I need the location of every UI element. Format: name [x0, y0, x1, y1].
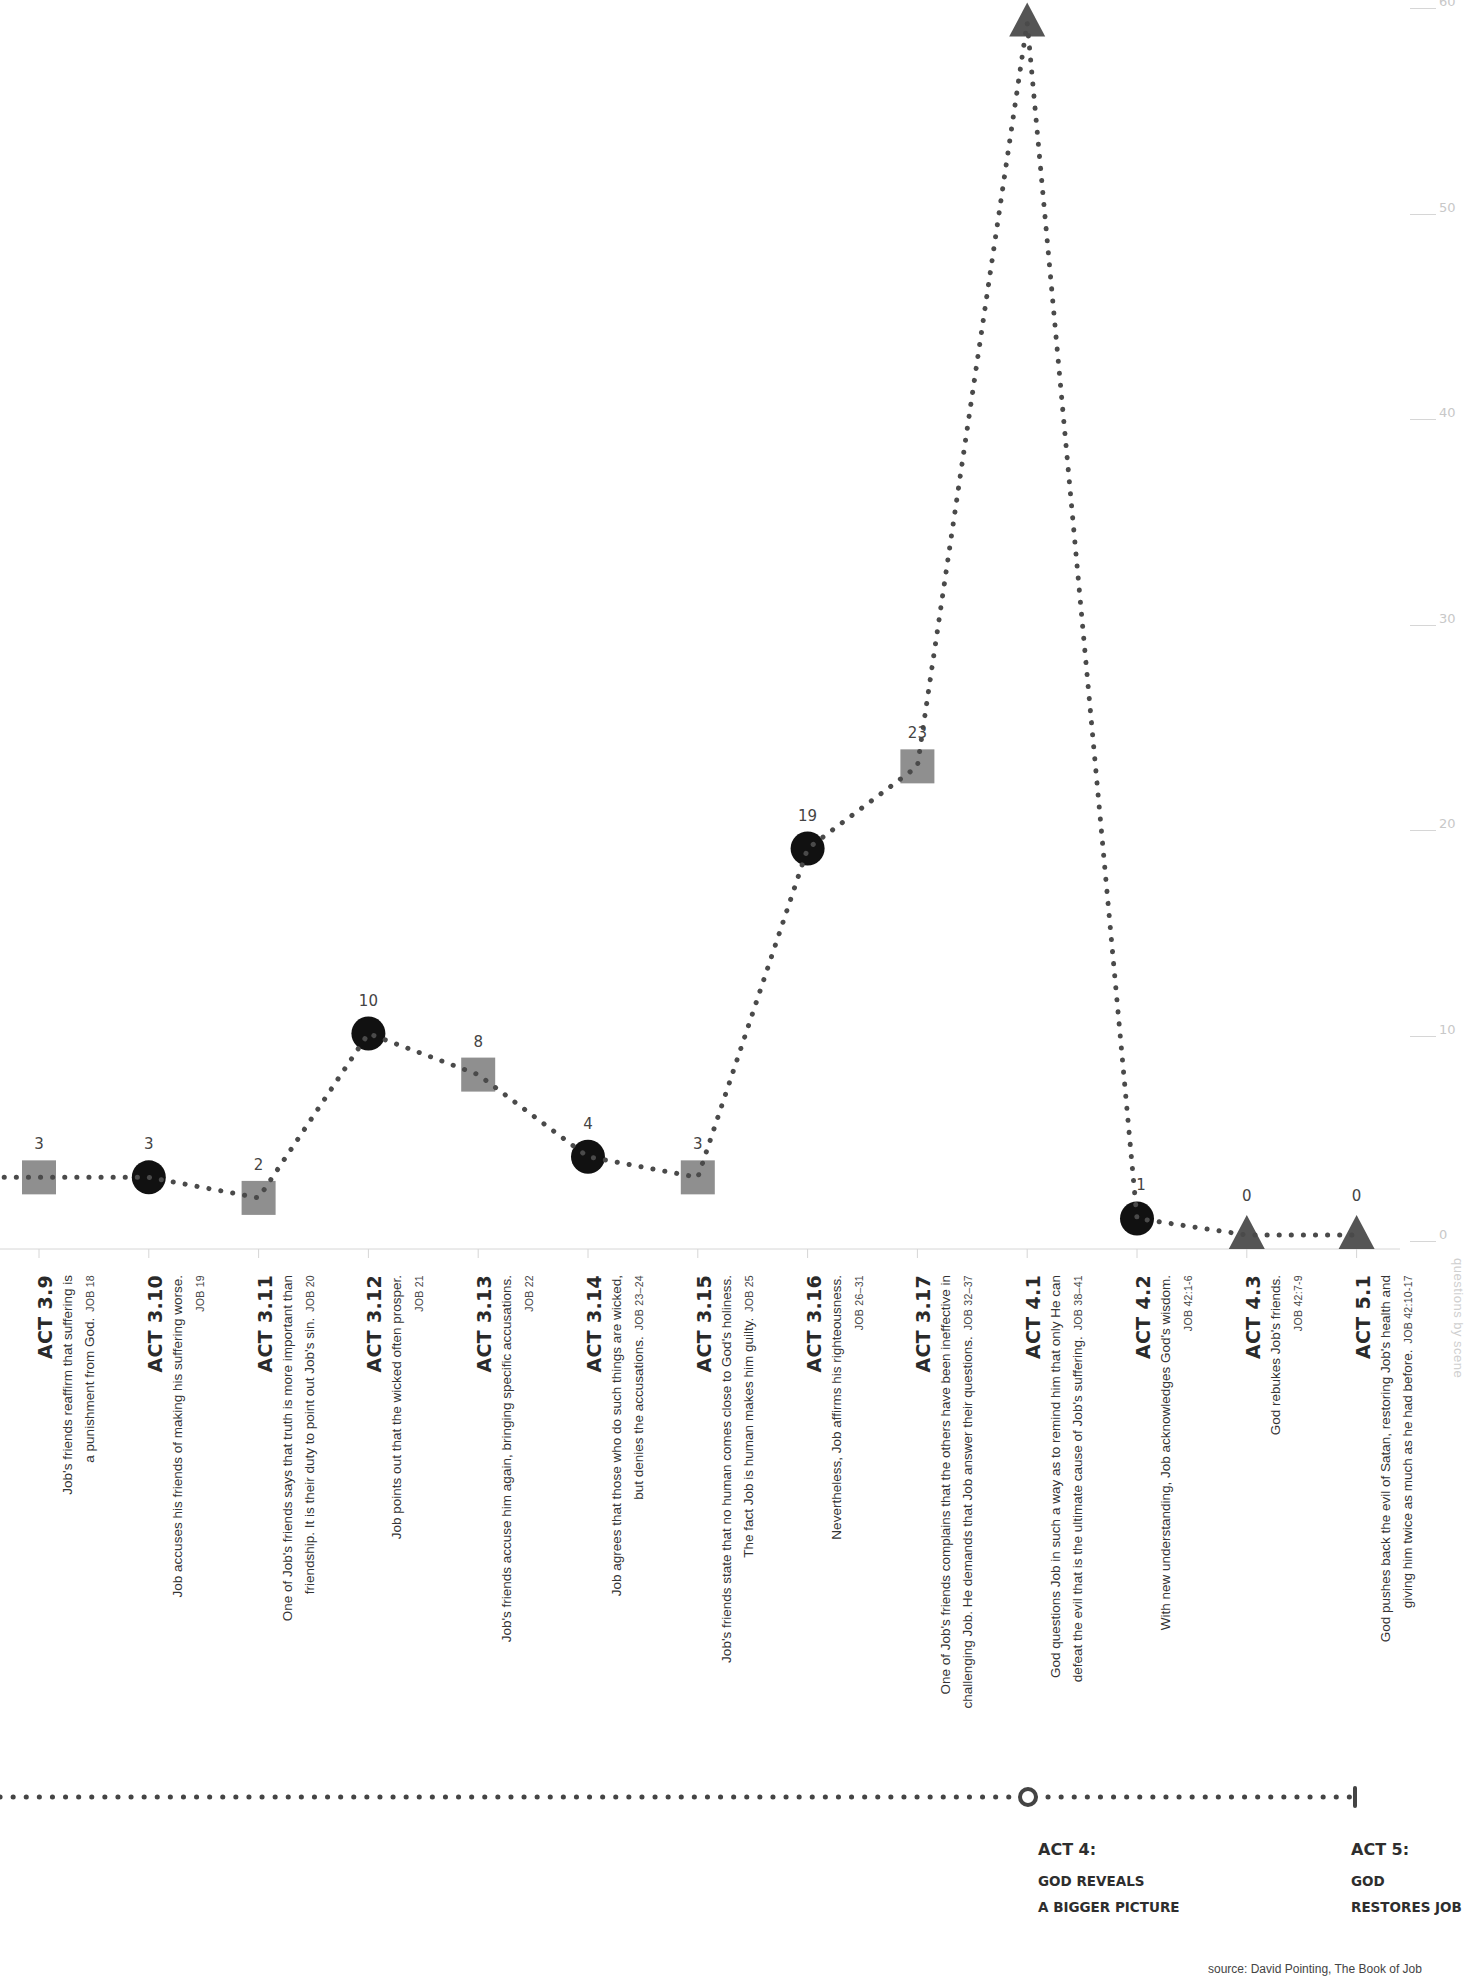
- scene-act-title: ACT 3.14: [582, 1275, 606, 1715]
- scene-description: Job's friends accuse him again, bringing…: [496, 1275, 518, 1715]
- scene-description: With new understanding, Job acknowledges…: [1155, 1275, 1177, 1715]
- scene-act-title: ACT 3.17: [911, 1275, 935, 1715]
- y-tick-label: 50: [1439, 200, 1456, 215]
- y-tick-line: [1410, 830, 1436, 831]
- scene-description: Job agrees that those who do such things…: [606, 1275, 628, 1715]
- y-tick-label: 40: [1439, 405, 1456, 420]
- scene-act-title: ACT 3.10: [143, 1275, 167, 1715]
- scripture-reference: JOB 22: [523, 1275, 535, 1312]
- scene-act-title: ACT 3.9: [33, 1275, 57, 1715]
- scene-label-act-3-13: ACT 3.13Job's friends accuse him again, …: [472, 1275, 540, 1715]
- scripture-reference: JOB 18: [84, 1275, 96, 1312]
- scripture-reference: JOB 21: [413, 1275, 425, 1312]
- scene-label-act-3-15: ACT 3.15Job's friends state that no huma…: [692, 1275, 760, 1715]
- scene-label-act-4-1: ACT 4.1God questions Job in such a way a…: [1021, 1275, 1089, 1715]
- value-label: 4: [583, 1115, 593, 1133]
- act-5-heading: ACT 5:: [1351, 1840, 1409, 1859]
- y-tick-label: 20: [1439, 816, 1456, 831]
- scene-label-act-3-16: ACT 3.16Nevertheless, Job affirms his ri…: [802, 1275, 870, 1715]
- scripture-reference: JOB 42:7-9: [1292, 1275, 1304, 1331]
- scene-description: God rebukes Job's friends.: [1265, 1275, 1287, 1715]
- scene-label-act-3-10: ACT 3.10Job accuses his friends of makin…: [143, 1275, 211, 1715]
- value-label: 3: [144, 1135, 154, 1153]
- act-4-subtitle-1: GOD REVEALS: [1038, 1868, 1145, 1894]
- square-marker: [900, 749, 934, 783]
- value-label: 2: [254, 1156, 264, 1174]
- scripture-reference: JOB 42:10-17: [1402, 1275, 1414, 1343]
- scene-description: Job's friends reaffirm that suffering is: [57, 1275, 79, 1715]
- scene-label-act-3-12: ACT 3.12Job points out that the wicked o…: [362, 1275, 430, 1715]
- scene-label-act-4-2: ACT 4.2With new understanding, Job ackno…: [1131, 1275, 1199, 1715]
- scene-label-act-3-9: ACT 3.9Job's friends reaffirm that suffe…: [33, 1275, 101, 1715]
- y-tick-label: 10: [1439, 1022, 1456, 1037]
- y-tick-line: [1410, 1036, 1436, 1037]
- scene-description: friendship. It is their duty to point ou…: [299, 1275, 321, 1715]
- value-label: 0: [1352, 1187, 1362, 1205]
- scene-description: a punishment from God.JOB 18: [79, 1275, 101, 1715]
- scene-description: One of Job's friends complains that the …: [935, 1275, 957, 1715]
- value-label: 1: [1136, 1176, 1146, 1194]
- triangle-marker: [1339, 1215, 1375, 1249]
- act-4-open-circle-marker: [1020, 1789, 1036, 1805]
- y-tick-label: 60: [1439, 0, 1456, 9]
- circle-marker: [571, 1140, 605, 1174]
- dotted-series-line: [0, 23, 1357, 1235]
- y-tick-label: 0: [1439, 1227, 1447, 1242]
- act-5-subtitle-1: GOD: [1351, 1868, 1385, 1894]
- scripture-reference: JOB 25: [743, 1275, 755, 1312]
- scene-description: God pushes back the evil of Satan, resto…: [1375, 1275, 1397, 1715]
- scene-description: but denies the accusations.JOB 23–24: [628, 1275, 650, 1715]
- value-label: 10: [359, 992, 378, 1010]
- source-note: source: David Pointing, The Book of Job: [1208, 1962, 1422, 1976]
- circle-marker: [351, 1017, 385, 1051]
- scene-description: God questions Job in such a way as to re…: [1045, 1275, 1067, 1715]
- scene-description: One of Job's friends says that truth is …: [277, 1275, 299, 1715]
- scene-act-title: ACT 3.11: [253, 1275, 277, 1715]
- scene-description: giving him twice as much as he had befor…: [1397, 1275, 1419, 1715]
- y-tick-line: [1410, 1241, 1436, 1242]
- y-tick-line: [1410, 419, 1436, 420]
- scene-act-title: ACT 3.12: [362, 1275, 386, 1715]
- scripture-reference: JOB 19: [194, 1275, 206, 1312]
- value-label: 23: [908, 724, 927, 742]
- scene-description: The fact Job is human makes him guilty.J…: [738, 1275, 760, 1715]
- y-tick-label: 30: [1439, 611, 1456, 626]
- scripture-reference: JOB 42:1-6: [1182, 1275, 1194, 1331]
- scene-label-act-3-17: ACT 3.17One of Job's friends complains t…: [911, 1275, 979, 1715]
- scripture-reference: JOB 32–37: [962, 1275, 974, 1330]
- value-label: 3: [34, 1135, 44, 1153]
- scene-description: Job points out that the wicked often pro…: [386, 1275, 408, 1715]
- scene-description: Nevertheless, Job affirms his righteousn…: [826, 1275, 848, 1715]
- value-label: 19: [798, 807, 817, 825]
- act-5-subtitle-2: RESTORES JOB: [1351, 1894, 1462, 1920]
- value-label: 8: [473, 1033, 483, 1051]
- scripture-reference: JOB 26–31: [853, 1275, 865, 1330]
- circle-marker: [791, 832, 825, 866]
- act-4-heading: ACT 4:: [1038, 1840, 1096, 1859]
- y-tick-line: [1410, 214, 1436, 215]
- scene-act-title: ACT 3.13: [472, 1275, 496, 1715]
- scene-description: Job's friends state that no human comes …: [716, 1275, 738, 1715]
- triangle-marker: [1229, 1215, 1265, 1249]
- square-marker: [681, 1160, 715, 1194]
- scene-description: Job accuses his friends of making his su…: [167, 1275, 189, 1715]
- y-axis-title: questions by scene: [1451, 1258, 1466, 1378]
- y-tick-line: [1410, 8, 1436, 9]
- scene-label-act-3-11: ACT 3.11One of Job's friends says that t…: [253, 1275, 321, 1715]
- scene-act-title: ACT 4.3: [1241, 1275, 1265, 1715]
- scene-label-act-5-1: ACT 5.1God pushes back the evil of Satan…: [1351, 1275, 1419, 1715]
- scripture-reference: JOB 20: [304, 1275, 316, 1312]
- scene-act-title: ACT 4.2: [1131, 1275, 1155, 1715]
- value-label: 3: [693, 1135, 703, 1153]
- scripture-reference: JOB 38–41: [1072, 1275, 1084, 1330]
- scene-act-title: ACT 3.16: [802, 1275, 826, 1715]
- y-tick-line: [1410, 625, 1436, 626]
- scene-act-title: ACT 3.15: [692, 1275, 716, 1715]
- value-label: 0: [1242, 1187, 1252, 1205]
- scene-label-act-4-3: ACT 4.3God rebukes Job's friends.JOB 42:…: [1241, 1275, 1309, 1715]
- act-4-subtitle-2: A BIGGER PICTURE: [1038, 1894, 1180, 1920]
- scene-act-title: ACT 4.1: [1021, 1275, 1045, 1715]
- scene-act-title: ACT 5.1: [1351, 1275, 1375, 1715]
- scripture-reference: JOB 23–24: [633, 1275, 645, 1330]
